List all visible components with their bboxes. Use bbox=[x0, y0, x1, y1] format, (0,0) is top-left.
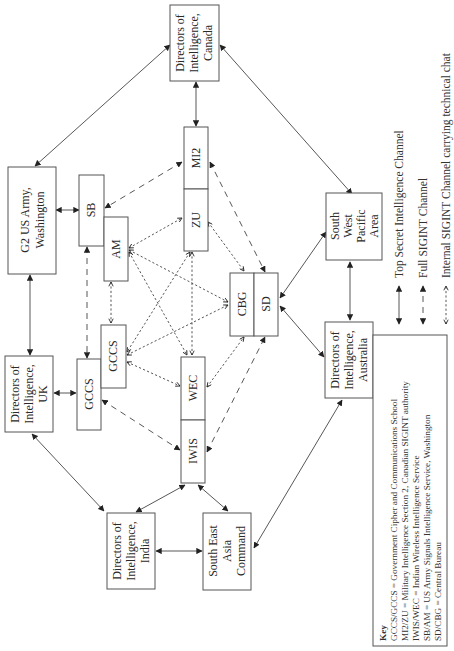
node-am: AM bbox=[104, 217, 128, 281]
key-title: Key bbox=[378, 625, 388, 641]
node-label: GCCS bbox=[106, 340, 120, 371]
node-se-asia-command: South East Asia Command bbox=[203, 513, 251, 590]
legend-label-internal-sigint: Internal SIGINT Channel carrying technic… bbox=[440, 52, 453, 278]
dotted-edges bbox=[111, 218, 244, 387]
key-line: IWIS/WEC = Indian Wireless Intelligence … bbox=[411, 455, 421, 641]
node-label: AM bbox=[109, 239, 123, 259]
node-label: Directors of bbox=[173, 14, 187, 72]
key-box: Key GCCS/GCCS = Government Cipher and Co… bbox=[373, 335, 447, 646]
node-label: Intelligence, bbox=[22, 364, 36, 424]
legend-label-full-sigint: Full SIGINT Channel bbox=[417, 178, 429, 278]
node-label: Intelligence, bbox=[124, 521, 138, 581]
node-label: Canada bbox=[201, 24, 215, 61]
node-sd: SD bbox=[254, 273, 278, 336]
node-label: Australia bbox=[356, 337, 370, 382]
intelligence-channel-diagram: Directors of Intelligence, Canada MI2 ZU… bbox=[0, 0, 454, 651]
key-line: SB/AM = US Army Signals Intelligence Ser… bbox=[422, 414, 432, 641]
node-label: ZU bbox=[189, 212, 203, 228]
node-label: South East bbox=[206, 525, 220, 577]
node-zu: ZU bbox=[184, 189, 208, 251]
node-label: Intelligence, bbox=[187, 13, 201, 73]
node-label: SD bbox=[259, 296, 273, 312]
node-label: Command bbox=[234, 526, 248, 576]
node-sb: SB bbox=[79, 175, 104, 246]
node-label: CBG bbox=[235, 291, 249, 316]
node-g2-us-army: G2 US Army, Washington bbox=[8, 167, 56, 274]
node-dir-canada: Directors of Intelligence, Canada bbox=[170, 5, 219, 81]
node-label: Washington bbox=[33, 191, 47, 248]
node-iwis: IWIS bbox=[181, 420, 205, 483]
node-cbg: CBG bbox=[230, 273, 254, 336]
node-gccs-uk: GCCS bbox=[77, 359, 101, 430]
node-label: IWIS bbox=[186, 438, 200, 464]
node-label: GCCS bbox=[82, 378, 96, 409]
key-line: GCCS/GCCS = Government Cipher and Commun… bbox=[389, 399, 399, 641]
key-line: SD/CBG = Central Bureau bbox=[433, 542, 443, 641]
node-mi2: MI2 bbox=[184, 127, 208, 189]
node-label: Directors of bbox=[8, 365, 22, 423]
node-label: MI2 bbox=[189, 148, 203, 169]
node-dir-india: Directors of Intelligence, India bbox=[107, 513, 155, 589]
node-dir-uk: Directors of Intelligence, UK bbox=[5, 356, 53, 432]
node-label: SB bbox=[84, 203, 98, 218]
key-line: MI2/ZU = Military Intelligence Section 2… bbox=[400, 381, 410, 641]
node-sw-pacific: South West Pacific Area bbox=[326, 193, 382, 260]
legend-label-top-secret: Top Secret Intelligence Channel bbox=[393, 130, 406, 278]
node-label: South bbox=[328, 212, 342, 240]
node-label: Directors of bbox=[328, 331, 342, 389]
node-label: UK bbox=[36, 385, 50, 403]
node-label: West bbox=[341, 213, 355, 237]
node-dir-australia: Directors of Intelligence, Australia bbox=[325, 322, 373, 398]
node-label: Intelligence, bbox=[342, 330, 356, 390]
node-label: Directors of bbox=[110, 522, 124, 580]
node-wec: WEC bbox=[181, 357, 205, 420]
node-label: India bbox=[138, 538, 152, 563]
node-label: G2 US Army, bbox=[18, 187, 32, 253]
node-label: Pacific bbox=[354, 209, 368, 242]
node-label: Area bbox=[367, 214, 381, 238]
legend: Top Secret Intelligence Channel Full SIG… bbox=[393, 52, 453, 324]
node-gccs-2: GCCS bbox=[101, 325, 126, 388]
node-label: WEC bbox=[186, 375, 200, 402]
node-label: Asia bbox=[220, 539, 234, 562]
